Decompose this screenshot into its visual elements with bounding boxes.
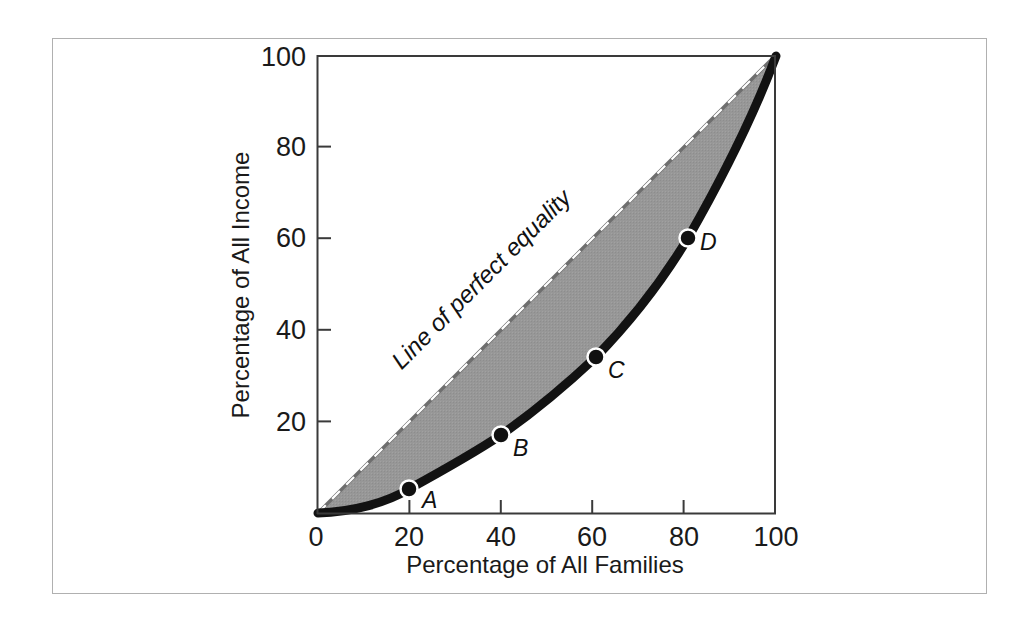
- y-tick-label-80: 80: [276, 132, 306, 162]
- lorenz-curve-chart: 100 20 40 60 80 0 20 40 60 80 100 A B C …: [0, 0, 1036, 627]
- y-tick-label-60: 60: [276, 223, 306, 253]
- data-point-label-d: D: [700, 229, 717, 255]
- x-tick-label-20: 20: [394, 522, 424, 552]
- data-point-label-a: A: [420, 487, 437, 513]
- data-point-a-marker: [401, 481, 418, 498]
- data-point-b-marker: [493, 427, 510, 444]
- x-tick-label-40: 40: [486, 522, 516, 552]
- x-tick-label-100: 100: [753, 522, 798, 552]
- data-point-label-c: C: [608, 357, 625, 383]
- x-tick-label-80: 80: [669, 522, 699, 552]
- y-tick-label-20: 20: [276, 407, 306, 437]
- x-axis-title: Percentage of All Families: [406, 551, 683, 578]
- y-tick-label-100: 100: [261, 42, 306, 72]
- x-tick-label-0: 0: [308, 522, 323, 552]
- y-axis-title: Percentage of All Income: [227, 152, 254, 419]
- x-tick-label-60: 60: [577, 522, 607, 552]
- y-tick-label-40: 40: [276, 315, 306, 345]
- data-point-label-b: B: [513, 435, 528, 461]
- chart-page: 100 20 40 60 80 0 20 40 60 80 100 A B C …: [0, 0, 1036, 627]
- data-point-d-marker: [680, 230, 697, 247]
- data-point-c-marker: [588, 349, 605, 366]
